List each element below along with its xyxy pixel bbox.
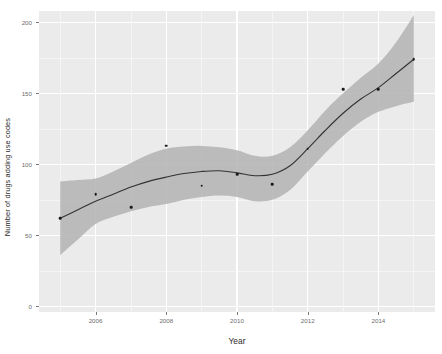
data-point: [59, 217, 62, 220]
data-point: [412, 58, 415, 61]
data-point: [94, 193, 97, 196]
x-tick-mark: [96, 312, 97, 315]
data-points: [39, 11, 435, 312]
x-tick-label: 2006: [76, 317, 116, 324]
data-point: [200, 184, 203, 187]
x-tick-label: 2014: [358, 317, 398, 324]
x-tick-label: 2012: [288, 317, 328, 324]
y-tick-label: 100: [6, 161, 32, 168]
data-point: [271, 183, 274, 186]
y-tick-label: 0: [6, 303, 32, 310]
data-point: [165, 145, 168, 148]
x-axis-title: Year: [39, 336, 435, 346]
x-tick-mark: [378, 312, 379, 315]
x-tick-label: 2008: [146, 317, 186, 324]
x-tick-label: 2010: [217, 317, 257, 324]
plot-panel: [39, 11, 435, 312]
chart-container: Number of drugs adding use codes 0501001…: [0, 0, 442, 354]
data-point: [377, 88, 380, 91]
y-axis-ticks: 050100150200: [0, 0, 39, 354]
x-tick-mark: [308, 312, 309, 315]
y-tick-label: 50: [6, 232, 32, 239]
x-tick-mark: [166, 312, 167, 315]
x-tick-mark: [237, 312, 238, 315]
y-tick-label: 200: [6, 19, 32, 26]
data-point: [236, 173, 239, 176]
data-point: [130, 206, 133, 209]
data-point: [342, 88, 345, 91]
data-point: [306, 147, 309, 150]
y-tick-label: 150: [6, 90, 32, 97]
